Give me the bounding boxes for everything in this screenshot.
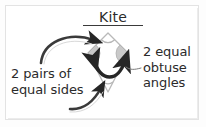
equal-sides-annotation: 2 pairs ofequal sides (11, 66, 84, 97)
obtuse-angles-line-2: obtuse (143, 60, 187, 75)
right-obtuse-angle-marker-icon (116, 45, 128, 62)
obtuse-angles-line-3: angles (143, 75, 185, 90)
obtuse-angles-annotation: 2 equalobtuseangles (143, 44, 191, 91)
obtuse-label-connector-icon (126, 67, 141, 69)
kite-diagram-figure: Kite (0, 0, 206, 127)
equal-sides-upper-arrow-icon (41, 37, 94, 64)
equal-sides-line-2: equal sides (11, 82, 84, 97)
equal-sides-line-1: 2 pairs of (11, 66, 71, 81)
obtuse-angles-line-1: 2 equal (143, 44, 191, 59)
